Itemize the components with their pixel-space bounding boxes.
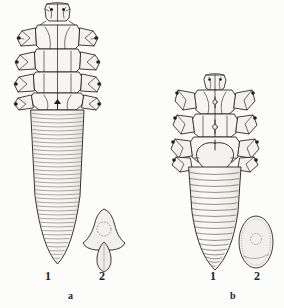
figure-a1-head [40, 3, 75, 26]
figure-b1-segment-row-2 [173, 114, 257, 137]
figure-label-b2: 2 [254, 270, 260, 282]
figure-a1-abdomen [28, 110, 88, 264]
figure-a1-segment-row-1 [17, 25, 98, 49]
figure-a1-dorsal-habitus [14, 3, 101, 265]
figure-b1-segment-row-1 [175, 90, 255, 114]
figure-label-a1: 1 [45, 270, 51, 282]
specimen-drawings [0, 0, 284, 308]
figure-a1-segment-row-3 [14, 72, 101, 93]
illustration-plate: 1 2 a 1 2 b [0, 0, 284, 308]
figure-a1-segment-row-2 [15, 49, 100, 72]
figure-b1-abdomen [186, 167, 244, 270]
figure-label-a2: 2 [99, 270, 105, 282]
figure-label-b1: 1 [210, 270, 216, 282]
panel-caption-a: a [68, 291, 73, 301]
panel-caption-b: b [230, 291, 236, 301]
figure-b1-head [204, 74, 226, 91]
figure-a2-detail-structure [83, 209, 125, 272]
figure-b2-detail-structure [239, 216, 273, 268]
